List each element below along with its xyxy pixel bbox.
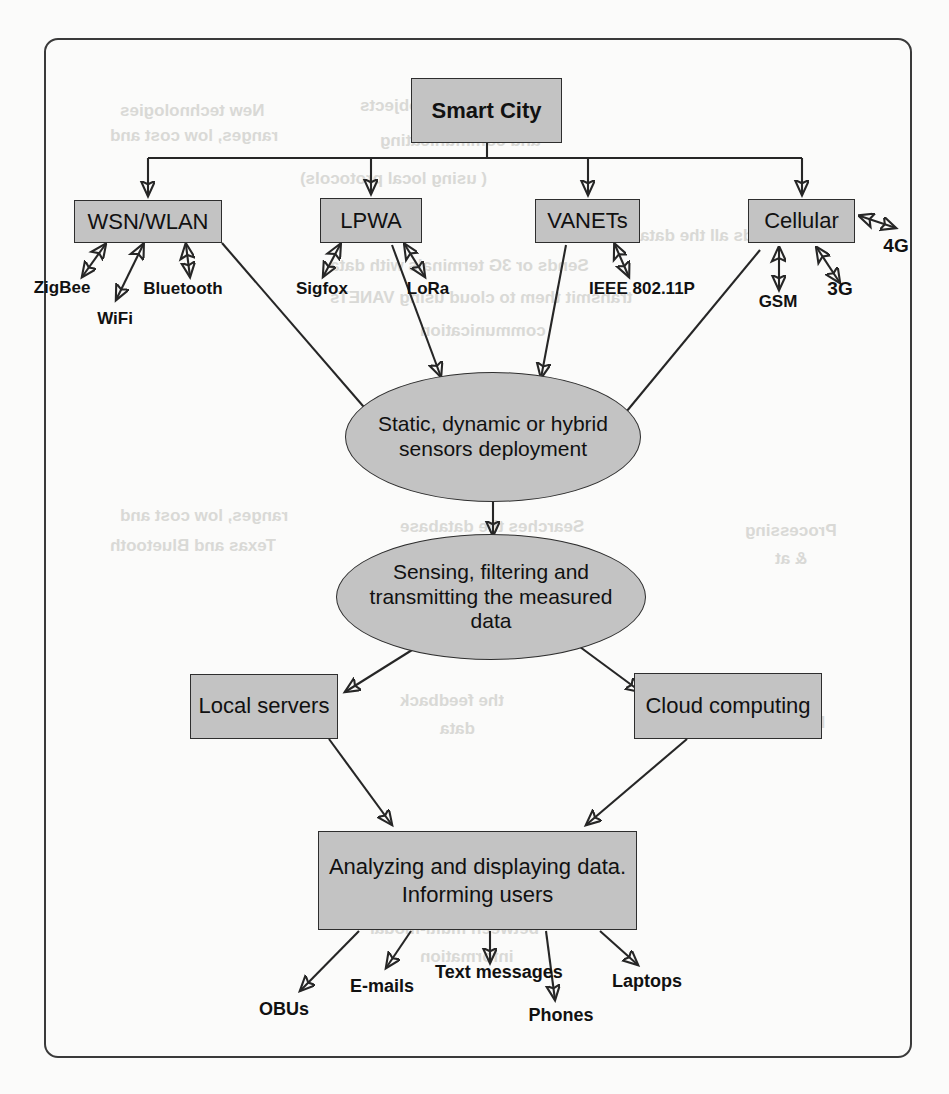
node-sensing-transmitting[interactable]: Sensing, filtering and transmitting the … (336, 534, 646, 660)
node-label: Analyzing and displaying data. Informing… (319, 853, 636, 908)
node-vanets[interactable]: VANETs (535, 199, 640, 243)
leaf-laptops: Laptops (601, 972, 693, 991)
node-label: WSN/WLAN (88, 209, 209, 235)
node-label: Smart City (431, 98, 541, 124)
node-wsn-wlan[interactable]: WSN/WLAN (74, 200, 222, 243)
node-label: Static, dynamic or hybrid sensors deploy… (364, 412, 622, 462)
leaf-emails: E-mails (337, 977, 427, 996)
leaf-text-messages: Text messages (435, 962, 545, 983)
node-label: Sensing, filtering and transmitting the … (355, 560, 627, 634)
leaf-sigfox: Sigfox (282, 280, 362, 298)
node-local-servers[interactable]: Local servers (190, 674, 338, 739)
node-cellular[interactable]: Cellular (748, 199, 855, 243)
node-analyzing-displaying[interactable]: Analyzing and displaying data. Informing… (318, 831, 637, 930)
node-cloud-computing[interactable]: Cloud computing (634, 673, 822, 739)
node-lpwa[interactable]: LPWA (320, 198, 422, 243)
leaf-zigbee: ZigBee (24, 279, 100, 297)
node-sensor-deployment[interactable]: Static, dynamic or hybrid sensors deploy… (345, 372, 641, 502)
node-label: Cloud computing (645, 693, 810, 719)
node-smart-city[interactable]: Smart City (411, 78, 562, 143)
node-label: LPWA (340, 208, 402, 234)
node-label: Cellular (764, 208, 839, 234)
leaf-phones: Phones (518, 1006, 604, 1025)
node-label: Local servers (199, 693, 330, 719)
leaf-obus: OBUs (248, 1000, 320, 1019)
leaf-lora: LoRa (393, 280, 463, 298)
leaf-gsm: GSM (745, 293, 811, 311)
leaf-4g: 4G (872, 236, 920, 256)
leaf-3g: 3G (816, 279, 864, 299)
leaf-ieee-80211p: IEEE 802.11P (572, 280, 712, 298)
node-label: VANETs (547, 208, 627, 234)
leaf-bluetooth: Bluetooth (128, 280, 238, 298)
leaf-wifi: WiFi (80, 310, 150, 328)
